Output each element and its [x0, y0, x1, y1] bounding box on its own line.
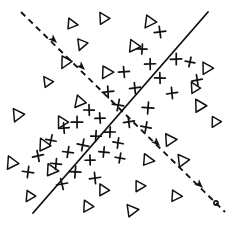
scatter-plot-svg — [0, 0, 234, 226]
figure-canvas — [0, 0, 234, 226]
plot-background — [0, 0, 234, 226]
